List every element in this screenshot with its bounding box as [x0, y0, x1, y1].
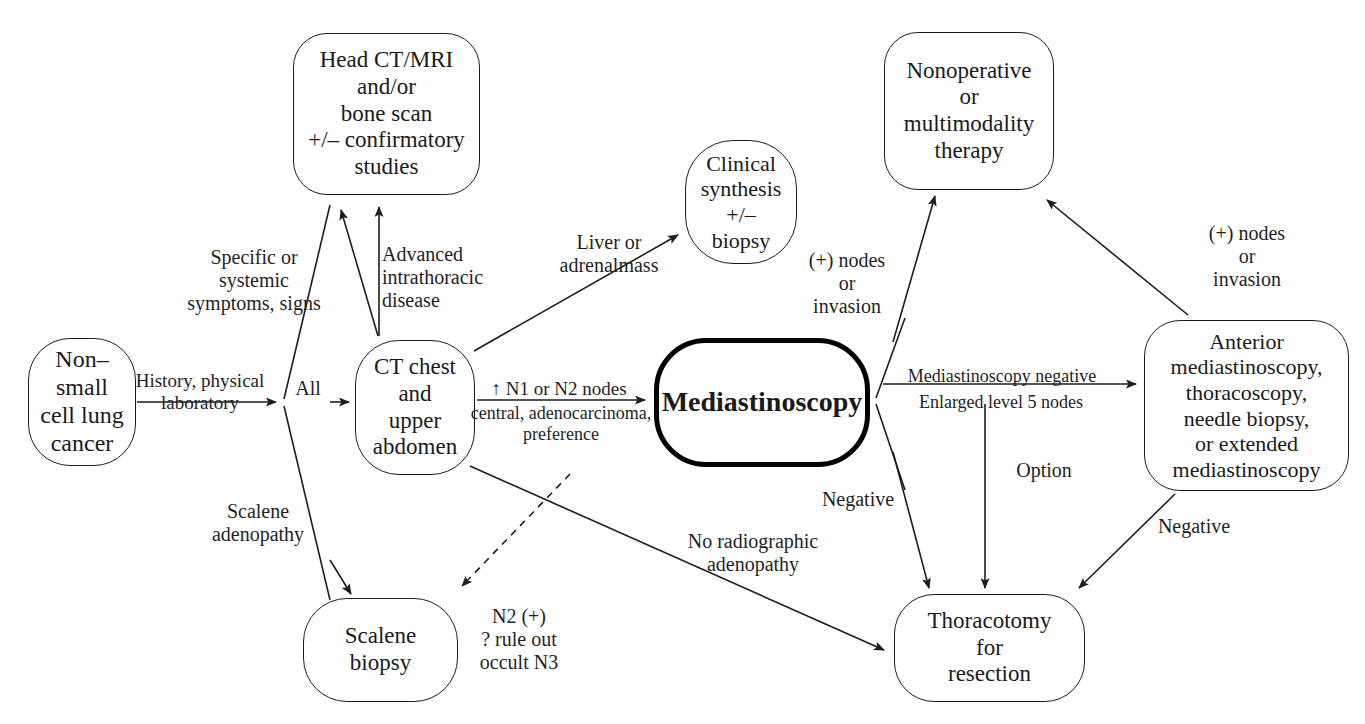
edge-label-mediastinoscopy-negative: Mediastinoscopy negative	[897, 366, 1107, 387]
edge-label-liver-or-adrenal-mass: Liver or adrenalmass	[540, 231, 678, 277]
node-label: Non– small cell lung cancer	[36, 346, 127, 457]
node-label: Nonoperative or multimodality therapy	[900, 58, 1038, 165]
edge-label-enlarged-level-5-nodes: Enlarged level 5 nodes	[903, 392, 1099, 413]
edge-label-specific-or-systemic-symptoms: Specific or systemic symptoms, signs	[178, 246, 330, 314]
edge-label-all: All	[288, 377, 328, 400]
edge-junction-to-scalene-biopsy	[330, 560, 351, 594]
node-clinical-synthesis-biopsy[interactable]: Clinical synthesis +/– biopsy	[685, 140, 797, 264]
node-scalene-biopsy[interactable]: Scalene biopsy	[303, 598, 458, 702]
edge-label-positive-nodes-or-invasion-right: (+) nodes or invasion	[1196, 222, 1298, 290]
edge-mediastinoscopy-hub-down	[876, 404, 905, 490]
edge-label-positive-nodes-or-invasion-left: (+) nodes or invasion	[796, 249, 898, 317]
edge-label-negative-right: Negative	[1148, 515, 1240, 538]
edge-dashed-to-scalene-biopsy	[462, 474, 570, 586]
node-head-ct-mri-bone-scan[interactable]: Head CT/MRI and/or bone scan +/– confirm…	[293, 33, 480, 195]
node-thoracotomy-for-resection[interactable]: Thoracotomy for resection	[894, 594, 1085, 702]
node-label: CT chest and upper abdomen	[369, 354, 461, 461]
node-label: Thoracotomy for resection	[924, 608, 1056, 688]
edge-label-n1-or-n2-nodes: ↑ N1 or N2 nodes	[479, 378, 639, 400]
node-anterior-mediastinoscopy-options[interactable]: Anterior mediastinoscopy, thoracoscopy, …	[1144, 320, 1349, 491]
edge-anterior-to-nonoperative	[1047, 200, 1188, 315]
edge-label-central-adenocarcinoma-preference: central, adenocarcinoma, preference	[466, 403, 656, 444]
node-label: Clinical synthesis +/– biopsy	[697, 151, 786, 253]
node-label: Mediastinoscopy	[658, 386, 867, 418]
edge-anterior-to-thoracotomy	[1079, 494, 1175, 588]
node-non-small-cell-lung-cancer[interactable]: Non– small cell lung cancer	[28, 338, 136, 466]
edge-label-negative-left: Negative	[812, 488, 904, 511]
edge-label-advanced-intrathoracic-disease: Advanced intrathoracic disease	[382, 243, 502, 311]
edge-mediastinoscopy-to-thoracotomy	[893, 452, 929, 588]
edge-label-history-physical-laboratory: History, physical laboratory	[130, 370, 270, 413]
node-ct-chest-and-upper-abdomen[interactable]: CT chest and upper abdomen	[355, 340, 475, 475]
node-label: Anterior mediastinoscopy, thoracoscopy, …	[1167, 329, 1327, 482]
edge-label-no-radiographic-adenopathy: No radiographic adenopathy	[668, 530, 838, 576]
node-mediastinoscopy[interactable]: Mediastinoscopy	[654, 338, 870, 467]
node-label: Scalene biopsy	[341, 623, 421, 676]
node-nonoperative-or-multimodality-therapy[interactable]: Nonoperative or multimodality therapy	[884, 32, 1054, 190]
flowchart-canvas: Non– small cell lung cancer Head CT/MRI …	[0, 0, 1365, 724]
edge-label-option: Option	[1004, 459, 1084, 482]
node-label: Head CT/MRI and/or bone scan +/– confirm…	[304, 47, 469, 180]
edge-ct-chest-to-head-ct	[341, 210, 378, 336]
edge-label-n2-positive-rule-out-occult-n3: N2 (+) ? rule out occult N3	[464, 605, 574, 673]
edge-label-scalene-adenopathy: Scalene adenopathy	[196, 500, 320, 546]
edge-mediastinoscopy-to-nonoperative	[893, 196, 935, 342]
